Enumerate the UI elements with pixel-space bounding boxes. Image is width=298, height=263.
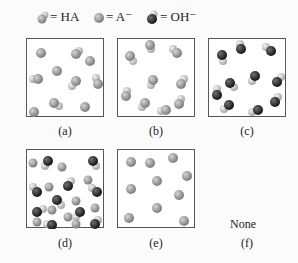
- particles-a: [27, 39, 105, 118]
- particles-d: [27, 150, 105, 229]
- panel-b: [117, 38, 195, 117]
- panel-label-a: (a): [45, 124, 85, 139]
- oh-minus-ion-icon: [146, 9, 160, 25]
- legend-label-ha: = HA: [50, 9, 79, 25]
- legend: = HA = A⁻ = OH⁻: [0, 9, 298, 29]
- legend-item-ha: = HA: [36, 9, 79, 25]
- ha-molecule-icon: [36, 10, 50, 24]
- a-minus-ion-icon: [92, 10, 106, 24]
- panel-d: [26, 149, 104, 228]
- legend-item-a-minus: = A⁻: [92, 9, 132, 25]
- panel-e: [117, 149, 195, 228]
- particles-c: [209, 39, 287, 118]
- legend-item-oh-minus: = OH⁻: [146, 9, 196, 25]
- panel-label-c: (c): [227, 124, 267, 139]
- panel-label-b: (b): [136, 124, 176, 139]
- legend-label-oh-minus: = OH⁻: [160, 9, 196, 25]
- legend-label-a-minus: = A⁻: [106, 9, 132, 25]
- panel-label-d: (d): [45, 236, 85, 251]
- particles-b: [118, 39, 196, 118]
- panel-f-none-text: None: [230, 217, 256, 232]
- panel-c: [208, 38, 286, 117]
- panel-a: [26, 38, 104, 117]
- panel-label-f: (f): [227, 236, 267, 251]
- particles-e: [118, 150, 196, 229]
- panel-label-e: (e): [136, 236, 176, 251]
